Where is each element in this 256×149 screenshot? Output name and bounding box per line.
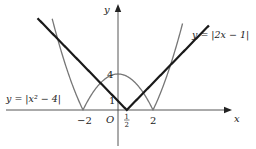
eq-line-text: y = |2x − 1|: [191, 29, 249, 41]
curve-abs-x2-minus-4: [52, 19, 182, 110]
x-axis-label: x: [234, 113, 240, 124]
function-graph: y x O −2 2 1 2 1 4 y = |2x − 1| y = |x² …: [0, 0, 256, 149]
equation-label-line: y = |2x − 1|: [191, 29, 249, 41]
y-axis-label: y: [103, 4, 110, 15]
x-tick-half-numerator: 1: [125, 113, 129, 121]
x-tick-neg2: −2: [77, 115, 92, 126]
y-tick-4: 4: [107, 69, 113, 80]
axes: [6, 4, 232, 146]
y-axis-arrow-icon: [115, 4, 121, 12]
equation-label-curve: y = |x² − 4|: [5, 93, 61, 105]
x-tick-2: 2: [150, 115, 156, 126]
eq-curve-text: y = |x² − 4|: [5, 93, 61, 105]
x-axis-arrow-icon: [224, 107, 232, 113]
line-abs-2x-minus-1: [38, 18, 210, 110]
x-tick-half: 1 2: [124, 113, 130, 129]
y-tick-1: 1: [109, 95, 115, 106]
origin-label: O: [106, 114, 114, 125]
x-tick-half-denominator: 2: [125, 121, 129, 129]
